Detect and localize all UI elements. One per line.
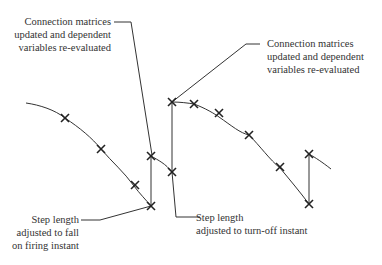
annotation-line: Connection matrices [267,37,364,50]
annotation-line: on firing instant [12,239,79,252]
annotation-bottom-left: Step length adjusted to fall on firing i… [12,213,79,252]
annotation-line: adjusted to fall [12,226,79,239]
annotation-bottom-middle: Step length adjusted to turn-off instant [196,211,308,237]
annotation-top-right: Connection matrices updated and dependen… [267,37,364,76]
x-marker-icon [276,163,284,171]
x-marker-icon [215,109,223,117]
trajectory-segment-3 [172,102,309,204]
x-marker-icon [245,131,253,139]
x-marker-icon [61,114,69,122]
annotation-line: updated and dependent [267,50,364,63]
annotation-line: variables re-evaluated [14,41,111,54]
leader-top-right [172,44,260,102]
step-markers [61,98,313,210]
annotation-top-left: Connection matrices updated and dependen… [14,15,111,54]
trajectory-segment-1 [26,103,151,206]
x-marker-icon [97,145,105,153]
annotation-line: Step length [12,213,79,226]
leader-top-left [114,22,152,155]
annotation-line: variables re-evaluated [267,63,364,76]
leader-bottom-left [81,206,151,220]
annotation-line: Connection matrices [14,15,111,28]
annotation-line: Step length [196,211,308,224]
annotation-line: adjusted to turn-off instant [196,224,308,237]
annotation-line: updated and dependent [14,28,111,41]
